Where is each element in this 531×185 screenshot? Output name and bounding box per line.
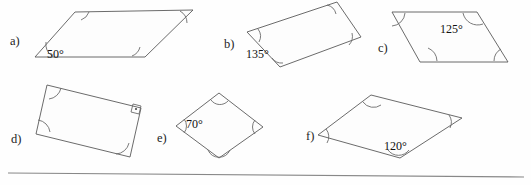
horizontal-rule <box>8 173 524 177</box>
shape-d-rectangle <box>36 85 141 157</box>
problem-label-a: a) <box>10 35 20 48</box>
angle-label-a: 50° <box>47 48 64 60</box>
worksheet-canvas: a) b) c) d) e) f) 50° 135° 125° 70° 120° <box>0 0 531 185</box>
problem-label-e: e) <box>157 132 167 145</box>
shape-c-parallelogram <box>392 12 508 62</box>
shape-d-right-angle-dot-icon <box>135 108 137 110</box>
angle-label-e: 70° <box>186 118 203 130</box>
angle-label-c: 125° <box>440 23 463 35</box>
problem-label-b: b) <box>224 38 234 51</box>
angle-label-f: 120° <box>384 140 407 152</box>
problem-label-c: c) <box>378 42 388 55</box>
problem-label-f: f) <box>306 130 314 143</box>
problem-label-d: d) <box>11 133 21 146</box>
angle-label-b: 135° <box>246 48 269 60</box>
